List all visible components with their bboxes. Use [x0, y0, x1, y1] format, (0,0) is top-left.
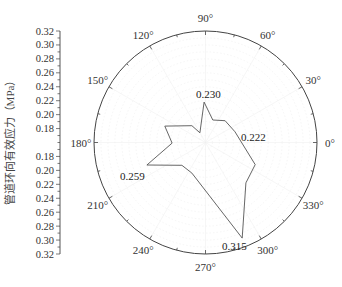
angular-tick	[150, 46, 152, 49]
angle-label: 180°	[71, 137, 92, 149]
value-annotation: 0.259	[120, 170, 145, 182]
radial-tick-label: 0.24	[36, 193, 55, 204]
radial-tick-label: 0.20	[36, 165, 54, 176]
radial-tick-label: 0.32	[36, 26, 54, 37]
radial-tick-label: 0.22	[36, 179, 54, 190]
radial-tick-label: 0.20	[36, 109, 54, 120]
angular-tick	[283, 220, 285, 222]
angular-tick	[283, 64, 285, 66]
angular-tick	[299, 87, 302, 89]
angular-tick	[150, 236, 152, 239]
radial-tick-label: 0.30	[36, 235, 54, 246]
angle-label: 120°	[133, 29, 154, 41]
angular-tick	[109, 196, 112, 198]
radial-tick-label: 0.28	[36, 53, 54, 64]
angle-label: 90°	[198, 12, 213, 24]
angle-label: 150°	[87, 74, 108, 86]
radial-tick-label: 0.26	[36, 207, 54, 218]
polar-chart: 0°30°60°90°120°150°180°210°240°270°300°3…	[0, 0, 342, 287]
radial-tick-label: 0.28	[36, 221, 54, 232]
value-annotation: 0.222	[241, 131, 266, 143]
angle-label: 0°	[325, 137, 335, 149]
radial-tick-label: 0.18	[36, 151, 54, 162]
angle-label: 240°	[133, 244, 154, 256]
grid-spoke	[206, 143, 262, 240]
radial-tick-label: 0.32	[36, 249, 54, 260]
angle-label: 30°	[306, 74, 321, 86]
radial-tick-label: 0.26	[36, 67, 54, 78]
radial-tick-label: 0.22	[36, 95, 54, 106]
value-annotation: 0.230	[196, 88, 221, 100]
angular-tick	[127, 64, 129, 66]
angle-label: 330°	[303, 199, 324, 211]
radial-tick-label: 0.24	[36, 81, 55, 92]
angular-tick	[259, 46, 261, 49]
angle-label: 270°	[195, 261, 216, 273]
radial-axis: 0.320.300.280.260.240.220.200.180.180.20…	[36, 26, 60, 260]
y-axis-label: 管道环向有效应力（MPa）	[3, 75, 16, 206]
angular-tick	[259, 236, 261, 239]
angle-label: 60°	[260, 29, 275, 41]
radial-tick-label: 0.30	[36, 39, 54, 50]
angle-label: 300°	[257, 244, 278, 256]
radial-tick-label: 0.18	[36, 123, 54, 134]
value-annotation: 0.315	[222, 240, 247, 252]
angle-label: 210°	[87, 199, 108, 211]
data-polygon	[147, 102, 255, 238]
angular-tick	[109, 87, 112, 89]
angular-tick	[299, 196, 302, 198]
angular-tick	[127, 220, 129, 222]
